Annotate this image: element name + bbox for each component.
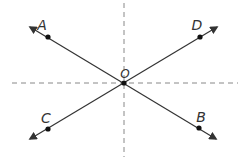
point-B bbox=[196, 125, 201, 130]
point-D bbox=[197, 34, 202, 39]
label-O: O bbox=[120, 67, 129, 81]
point-C bbox=[45, 126, 50, 131]
label-D: D bbox=[192, 17, 203, 33]
label-A: A bbox=[36, 17, 47, 33]
intersecting-lines-diagram: A D C B O bbox=[0, 0, 240, 157]
label-B: B bbox=[196, 109, 206, 125]
point-A bbox=[45, 34, 50, 39]
point-O bbox=[121, 80, 126, 85]
label-C: C bbox=[41, 110, 51, 126]
